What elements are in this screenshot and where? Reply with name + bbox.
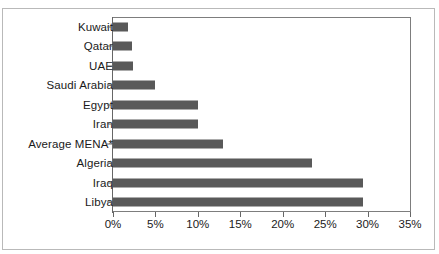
- x-axis-tick-label: 0%: [105, 218, 122, 230]
- bar-row: Algeria: [0, 154, 439, 174]
- x-axis-tick: [410, 212, 411, 217]
- category-label: Average MENA*: [28, 138, 113, 150]
- x-axis-tick: [283, 212, 284, 217]
- bar: [113, 120, 198, 129]
- bar: [113, 159, 312, 168]
- y-axis-tick: [107, 163, 112, 164]
- bar-row: Libya: [0, 193, 439, 213]
- bar-rows: KuwaitQatarUAESaudi ArabiaEgyptIranAvera…: [0, 17, 439, 212]
- x-axis-tick: [325, 212, 326, 217]
- bar-row: Iraq: [0, 173, 439, 193]
- bar-row: Qatar: [0, 37, 439, 57]
- x-axis-tick-label: 15%: [229, 218, 252, 230]
- bar: [113, 178, 363, 187]
- y-axis-tick: [107, 124, 112, 125]
- y-axis-tick: [107, 202, 112, 203]
- y-axis-tick: [107, 85, 112, 86]
- x-axis-tick-label: 35%: [398, 218, 421, 230]
- bar: [113, 22, 128, 31]
- x-axis-tick: [113, 212, 114, 217]
- x-axis-tick: [240, 212, 241, 217]
- bar: [113, 61, 133, 70]
- y-axis-tick: [107, 182, 112, 183]
- x-axis-tick: [155, 212, 156, 217]
- x-axis-tick-label: 25%: [314, 218, 337, 230]
- bar-row: Kuwait: [0, 17, 439, 37]
- y-axis-tick: [107, 65, 112, 66]
- y-axis-tick: [107, 46, 112, 47]
- bar-row: Saudi Arabia: [0, 76, 439, 96]
- category-label: Saudi Arabia: [47, 79, 113, 91]
- y-axis-tick: [107, 143, 112, 144]
- bar: [113, 42, 132, 51]
- x-axis-tick-label: 5%: [147, 218, 164, 230]
- bar: [113, 139, 223, 148]
- bar: [113, 100, 198, 109]
- x-axis: 0%5%10%15%20%25%30%35%: [0, 212, 439, 242]
- bar: [113, 198, 363, 207]
- x-axis-tick: [368, 212, 369, 217]
- bar-row: UAE: [0, 56, 439, 76]
- x-axis-tick-label: 10%: [186, 218, 209, 230]
- x-axis-tick: [198, 212, 199, 217]
- bar-row: Egypt: [0, 95, 439, 115]
- bar-row: Average MENA*: [0, 134, 439, 154]
- y-axis-tick: [107, 26, 112, 27]
- bar: [113, 81, 155, 90]
- y-axis-tick: [107, 104, 112, 105]
- bar-chart-figure: KuwaitQatarUAESaudi ArabiaEgyptIranAvera…: [0, 0, 439, 254]
- x-axis-tick-label: 20%: [271, 218, 294, 230]
- x-axis-tick-label: 30%: [356, 218, 379, 230]
- bar-row: Iran: [0, 115, 439, 135]
